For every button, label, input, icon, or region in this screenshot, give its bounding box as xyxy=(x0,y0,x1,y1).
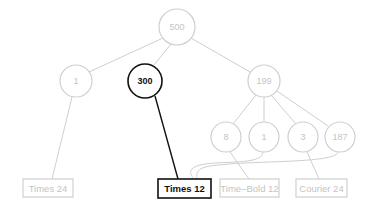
node-187[interactable]: 187 xyxy=(325,122,355,152)
node-label: 1 xyxy=(73,76,78,86)
tree-edges xyxy=(52,38,338,179)
edge-199-to-3 xyxy=(271,95,296,124)
leaf-times-24[interactable]: Times 24 xyxy=(23,179,73,197)
edge-3-to-courier24 xyxy=(307,152,319,179)
leaf-times-12[interactable]: Times 12 xyxy=(158,179,211,198)
node-1[interactable]: 1 xyxy=(60,65,92,97)
edge-199-to-187 xyxy=(277,91,328,126)
edge-root-to-300 xyxy=(154,44,171,65)
node-3[interactable]: 3 xyxy=(288,122,318,152)
node-label: 3 xyxy=(300,132,305,142)
edge-1-to-times24 xyxy=(52,97,72,179)
node-label: 500 xyxy=(169,22,184,32)
node-label: 199 xyxy=(256,76,271,86)
leaf-label: Times 24 xyxy=(29,183,68,194)
node-label: 1 xyxy=(261,132,266,142)
node-199[interactable]: 199 xyxy=(248,65,280,97)
edge-300-to-times12 xyxy=(155,96,178,179)
leaf-label: Courier 24 xyxy=(299,183,343,194)
node-8[interactable]: 8 xyxy=(211,122,241,152)
leaf-courier-24[interactable]: Courier 24 xyxy=(296,179,347,197)
leaf-label: Time–Bold 12 xyxy=(220,183,278,194)
node-300[interactable]: 300 xyxy=(128,64,162,98)
edge-1-to-times12 xyxy=(191,152,263,179)
edge-8-to-timebold12 xyxy=(230,152,249,179)
leaf-label: Times 12 xyxy=(164,183,205,194)
node-label: 8 xyxy=(223,132,228,142)
edge-199-to-8 xyxy=(233,95,256,124)
leaf-time-bold-12[interactable]: Time–Bold 12 xyxy=(220,179,279,197)
font-tree-diagram: 500 1 300 199 8 1 3 187 Times 24 Times 1… xyxy=(0,0,372,213)
edge-root-to-199 xyxy=(191,38,250,72)
node-1b[interactable]: 1 xyxy=(249,122,279,152)
node-label: 187 xyxy=(332,132,347,142)
node-500[interactable]: 500 xyxy=(159,9,195,45)
node-label: 300 xyxy=(137,76,152,86)
